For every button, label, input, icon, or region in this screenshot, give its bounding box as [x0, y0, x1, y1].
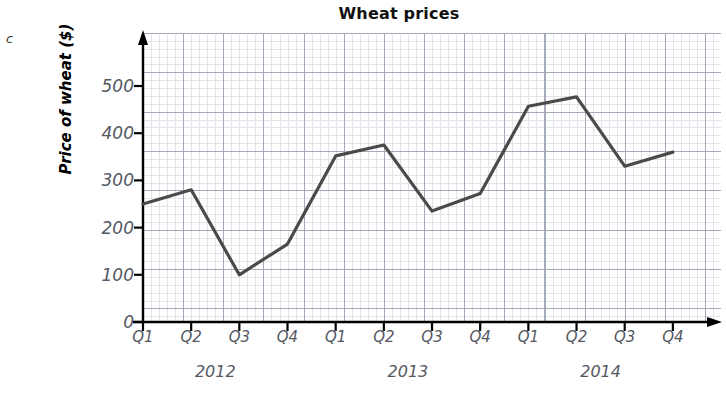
x-axis-tick-label: Q3 — [217, 330, 261, 345]
x-axis-tick-label: Q4 — [266, 330, 310, 345]
y-axis-ticks — [134, 86, 143, 322]
x-axis-tick-label: Q2 — [362, 330, 406, 345]
y-axis-tick-label: 300 — [88, 172, 134, 189]
x-axis-tick-label: Q4 — [651, 330, 695, 345]
y-axis-tick-label: 0 — [88, 314, 134, 331]
y-axis-tick-label: 500 — [88, 78, 134, 95]
x-axis-tick-label: Q1 — [506, 330, 550, 345]
x-axis-group-label: 2013 — [353, 364, 463, 380]
x-axis-group-label: 2014 — [546, 364, 656, 380]
x-axis-tick-label: Q2 — [555, 330, 599, 345]
x-axis-tick-label: Q2 — [169, 330, 213, 345]
x-axis-tick-label: Q1 — [121, 330, 165, 345]
x-axis-tick-label: Q1 — [314, 330, 358, 345]
plot-area — [143, 33, 721, 322]
chart-page: c Wheat prices Price of wheat ($) 010020… — [0, 0, 726, 398]
y-axis-tick-label: 400 — [88, 125, 134, 142]
grid-major — [143, 33, 721, 322]
x-axis-group-label: 2012 — [160, 364, 270, 380]
y-axis-tick-label: 200 — [88, 219, 134, 236]
y-axis-tick-label: 100 — [88, 266, 134, 283]
x-axis-tick-label: Q3 — [603, 330, 647, 345]
x-axis-tick-label: Q3 — [410, 330, 454, 345]
x-axis-tick-label: Q4 — [458, 330, 502, 345]
part-label: c — [6, 32, 13, 45]
